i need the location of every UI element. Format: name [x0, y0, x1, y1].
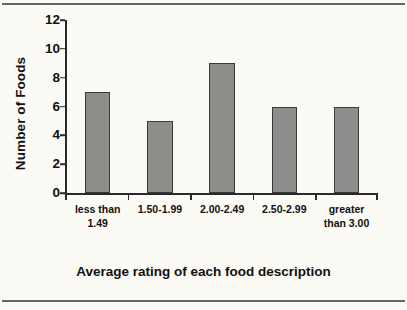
bar-slot [129, 20, 191, 193]
x-axis-tick [315, 195, 317, 200]
bar [85, 92, 111, 193]
y-axis-tick-label: 6 [52, 100, 60, 114]
x-axis-category-label: 1.50-1.99 [129, 202, 191, 230]
bar-slot [67, 20, 129, 193]
y-axis-title: Number of Foods [10, 22, 32, 204]
bar-series [67, 20, 378, 193]
x-axis-title: Average rating of each food description [0, 264, 407, 279]
x-axis-category-label: 2.00-2.49 [191, 202, 253, 230]
x-axis-ticks [65, 195, 378, 200]
bar-slot [253, 20, 315, 193]
x-axis-tick [128, 195, 130, 200]
x-axis-category-label: less than 1.49 [67, 202, 129, 230]
y-axis-title-text: Number of Foods [14, 56, 29, 169]
page-rule-top [2, 3, 405, 5]
page-rule-bottom [2, 300, 405, 302]
x-axis-tick [190, 195, 192, 200]
y-axis-tick-label: 2 [52, 157, 60, 171]
y-axis-tick-labels: 024681012 [34, 20, 60, 193]
bar [209, 63, 235, 193]
y-axis-tick-label: 4 [52, 129, 60, 143]
bar [147, 121, 173, 193]
x-axis-tick [65, 195, 67, 200]
x-axis-category-label: 2.50-2.99 [253, 202, 315, 230]
bar [272, 107, 298, 194]
x-axis-category-labels: less than 1.491.50-1.992.00-2.492.50-2.9… [67, 202, 378, 230]
bar-slot [315, 20, 377, 193]
y-axis-tick-label: 12 [45, 13, 60, 27]
y-axis-tick-label: 10 [45, 42, 60, 56]
bar-chart-figure: Number of Foods 024681012 less than 1.49… [0, 0, 407, 310]
plot-area: 024681012 less than 1.491.50-1.992.00-2.… [34, 20, 378, 212]
bar [334, 107, 360, 194]
x-axis-tick [376, 195, 378, 200]
x-axis-category-label: greater than 3.00 [315, 202, 377, 230]
y-axis-tick-label: 8 [52, 71, 60, 85]
y-axis-tick-label: 0 [52, 186, 60, 200]
bar-slot [191, 20, 253, 193]
x-axis-tick [253, 195, 255, 200]
